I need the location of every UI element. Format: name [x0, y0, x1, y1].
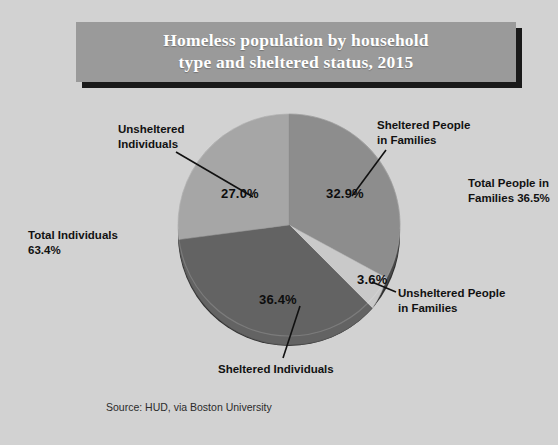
value-sheltered-individuals: 36.4%	[259, 292, 297, 307]
pie-chart	[168, 108, 412, 358]
value-unsheltered-individuals: 27.0%	[221, 186, 259, 201]
value-unsheltered-people-in-families: 3.6%	[357, 272, 387, 287]
label-total-individuals: Total Individuals 63.4%	[28, 228, 118, 258]
pie-slice-unsheltered-individuals	[178, 114, 289, 240]
value-sheltered-people-in-families: 32.9%	[326, 186, 364, 201]
chart-title-line-2: type and sheltered status, 2015	[179, 52, 414, 72]
label-total-people-in-families: Total People in Families 36.5%	[468, 176, 550, 206]
source-note: Source: HUD, via Boston University	[106, 401, 272, 413]
label-sheltered-people-in-families: Sheltered People in Families	[377, 118, 470, 148]
label-unsheltered-individuals: Unsheltered Individuals	[118, 122, 184, 152]
label-sheltered-individuals: Sheltered Individuals	[218, 362, 334, 377]
label-unsheltered-people-in-families: Unsheltered People in Families	[398, 286, 505, 316]
chart-title-line-1: Homeless population by household	[163, 30, 429, 50]
chart-title: Homeless population by household type an…	[163, 30, 429, 74]
chart-title-box: Homeless population by household type an…	[76, 22, 516, 82]
pie-chart-svg	[168, 108, 412, 358]
chart-canvas: Homeless population by household type an…	[0, 0, 558, 445]
